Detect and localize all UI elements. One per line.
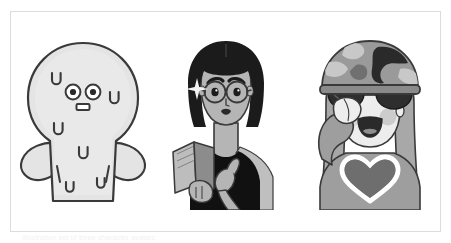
woman-lower-hand — [190, 181, 214, 203]
caption-text: Illustration set of three character avat… — [22, 233, 156, 242]
woman-left-eye-highlight — [216, 89, 218, 91]
soldier-helmet — [320, 41, 420, 94]
caption-strip: Illustration set of three character avat… — [22, 233, 282, 242]
woman-reading-illustration — [156, 35, 296, 210]
blob-creature-illustration — [13, 35, 153, 210]
blob-right-pupil — [90, 89, 96, 95]
woman-right-eye-highlight — [238, 89, 240, 91]
blob-body-group — [21, 43, 145, 201]
blob-left-pupil — [70, 89, 76, 95]
woman-right-eye — [234, 88, 241, 97]
glasses-right-temple — [248, 90, 252, 91]
illustration-canvas: Illustration set of three character avat… — [0, 0, 451, 243]
helmet-brim — [320, 85, 420, 94]
saluting-soldier-illustration — [300, 35, 440, 210]
figure-frame — [10, 11, 441, 232]
character-woman-reading — [156, 35, 296, 210]
blob-mouth — [76, 104, 89, 110]
woman-left-eye — [212, 88, 219, 97]
soldier-salute-hand — [334, 98, 361, 124]
illustration-row — [11, 12, 442, 233]
character-saluting-soldier — [300, 35, 440, 210]
character-blob-creature — [13, 35, 153, 210]
